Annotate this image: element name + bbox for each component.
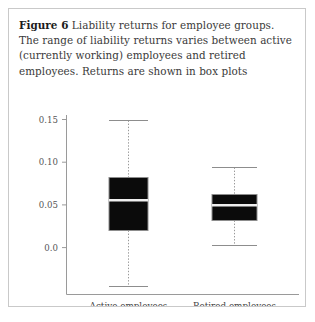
chart-svg: 0.15 0.10 0.05 0.0	[9, 101, 307, 306]
box-body-active	[109, 178, 148, 231]
box-plot-chart: 0.15 0.10 0.05 0.0	[9, 101, 307, 306]
x-axis-label-active-employees: Active employees	[89, 301, 168, 306]
y-axis-tick-labels: 0.15 0.10 0.05 0.0	[39, 115, 58, 253]
y-axis-ticks	[62, 120, 67, 248]
x-axis-label-retired-employees: Retired employees	[193, 301, 277, 306]
figure-card: Figure 6 Liability returns for employee …	[8, 8, 306, 307]
figure-caption: Figure 6 Liability returns for employee …	[19, 18, 297, 79]
y-tick-label-3: 0.0	[44, 243, 58, 253]
box-body-retired	[212, 195, 257, 221]
figure-number: Figure 6	[19, 19, 68, 31]
box-plot-active-employees	[109, 121, 148, 287]
y-tick-label-1: 0.10	[39, 157, 58, 167]
y-tick-label-2: 0.05	[39, 200, 58, 210]
box-plot-retired-employees	[212, 168, 257, 246]
y-tick-label-0: 0.15	[39, 115, 58, 125]
